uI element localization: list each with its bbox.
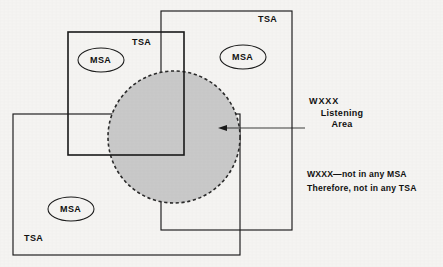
callout-line-2: Listening [309, 108, 375, 120]
label-msa-top-left: MSA [90, 56, 111, 65]
wxxx-listening-area-circle [108, 71, 240, 203]
callout-line-1: WXXX [309, 96, 375, 108]
note-line-1: WXXX—not in any MSA [307, 167, 417, 181]
venn-diagram-canvas [0, 0, 443, 267]
callout-line-3: Area [309, 119, 375, 131]
note-line-2: Therefore, not in any TSA [307, 181, 417, 195]
label-msa-bottom-left: MSA [60, 205, 81, 214]
label-tsa-bottom-left: TSA [24, 234, 43, 243]
wxxx-listening-area-callout: WXXX Listening Area [309, 96, 375, 131]
diagram-page: TSA TSA TSA MSA MSA MSA WXXX Listening A… [0, 0, 443, 267]
label-msa-top-right: MSA [232, 53, 253, 62]
label-tsa-middle: TSA [132, 38, 151, 47]
label-tsa-top-right: TSA [258, 15, 277, 24]
notes-block: WXXX—not in any MSA Therefore, not in an… [307, 167, 417, 195]
